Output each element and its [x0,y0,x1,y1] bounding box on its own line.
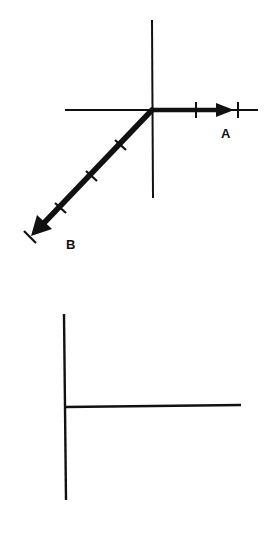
vector-a: A [152,102,238,141]
vector-b-label: B [66,237,75,252]
bottom-figure [64,314,241,500]
vector-a-label: A [221,126,231,141]
bottom-horizontal-axis [65,405,241,407]
vector-b-shaft [44,110,152,223]
diagram-canvas: A B [0,0,276,535]
vector-a-arrowhead-icon [216,103,234,117]
top-figure: A B [24,20,258,252]
vector-b: B [24,110,152,252]
